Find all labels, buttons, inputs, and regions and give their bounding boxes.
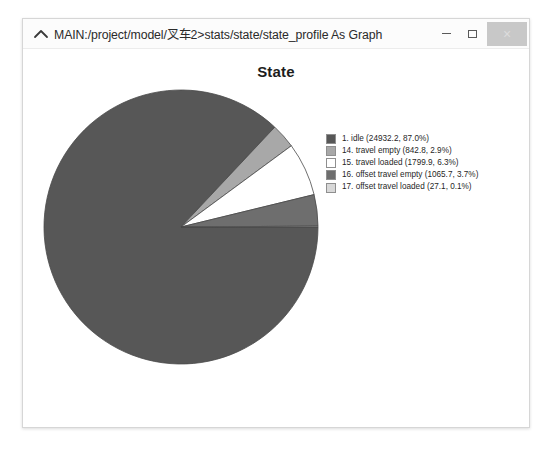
legend-label: 1. idle (24932.2, 87.0%): [342, 135, 429, 143]
legend-label: 14. travel empty (842.8, 2.9%): [342, 147, 452, 155]
close-icon: ×: [503, 27, 511, 41]
legend-label: 17. offset travel loaded (27.1, 0.1%): [342, 183, 472, 191]
maximize-button[interactable]: [459, 20, 485, 48]
legend-item: 17. offset travel loaded (27.1, 0.1%): [326, 182, 524, 194]
chart-area: State 1. idle (24932.2, 87.0%)14. travel…: [23, 49, 529, 427]
pie-slices: [44, 90, 318, 364]
legend-swatch: [326, 134, 336, 144]
pie-chart: [41, 87, 321, 367]
legend-item: 15. travel loaded (1799.9, 6.3%): [326, 157, 524, 169]
legend-label: 16. offset travel empty (1065.7, 3.7%): [342, 171, 478, 179]
legend-item: 16. offset travel empty (1065.7, 3.7%): [326, 170, 524, 182]
window-controls: ×: [433, 19, 529, 49]
pie-chart-svg: [41, 87, 321, 367]
chart-title: State: [23, 63, 529, 80]
legend-swatch: [326, 158, 336, 168]
legend-swatch: [326, 183, 336, 193]
legend-item: 1. idle (24932.2, 87.0%): [326, 133, 524, 145]
legend-item: 14. travel empty (842.8, 2.9%): [326, 145, 524, 157]
close-button[interactable]: ×: [487, 22, 527, 46]
legend-swatch: [326, 170, 336, 180]
legend-swatch: [326, 146, 336, 156]
chart-legend: 1. idle (24932.2, 87.0%)14. travel empty…: [326, 133, 524, 194]
screen: MAIN:/project/model/叉车2>stats/state/stat…: [0, 0, 556, 449]
minimize-button[interactable]: [433, 20, 459, 48]
graph-window: MAIN:/project/model/叉车2>stats/state/stat…: [22, 18, 530, 428]
window-title: MAIN:/project/model/叉车2>stats/state/stat…: [54, 25, 433, 43]
chevron-up-icon: [32, 25, 50, 43]
window-titlebar[interactable]: MAIN:/project/model/叉车2>stats/state/stat…: [23, 19, 529, 49]
legend-label: 15. travel loaded (1799.9, 6.3%): [342, 159, 459, 167]
